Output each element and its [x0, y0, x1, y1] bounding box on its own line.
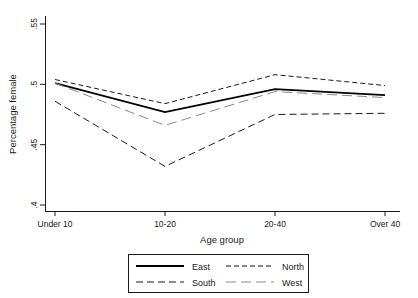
x-tick-label: Over 40 [370, 219, 401, 229]
x-tick-label: 10-20 [154, 219, 176, 229]
x-axis-title: Age group [200, 234, 244, 245]
series-line-east [55, 83, 385, 112]
x-axis-ticks: Under 1010-2020-40Over 40 [38, 212, 401, 230]
y-tick-label: .45 [29, 138, 39, 150]
x-tick-label: 20-40 [264, 219, 286, 229]
legend-label-south: South [192, 278, 216, 288]
series-line-south [55, 101, 385, 166]
line-chart: .4.45.5.55 Under 1010-2020-40Over 40 Per… [0, 0, 418, 298]
y-axis-ticks: .4.45.5.55 [29, 18, 46, 209]
chart-legend: EastNorthSouthWest [129, 255, 309, 293]
y-tick-label: .4 [29, 201, 39, 208]
x-tick-label: Under 10 [38, 219, 73, 229]
series-line-north [55, 75, 385, 104]
legend-label-north: North [282, 262, 304, 272]
y-tick-label: .55 [29, 18, 39, 30]
y-axis-title: Percentage female [7, 74, 18, 154]
legend-label-west: West [282, 278, 303, 288]
legend-label-east: East [192, 262, 211, 272]
data-series-layer [55, 75, 385, 167]
chart-figure: .4.45.5.55 Under 1010-2020-40Over 40 Per… [0, 0, 418, 298]
y-tick-label: .5 [29, 81, 39, 88]
